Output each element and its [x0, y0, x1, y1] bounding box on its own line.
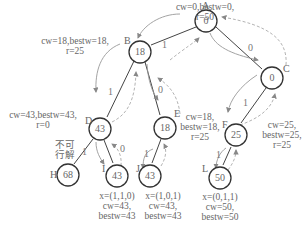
- edge-ab-label: 1: [162, 39, 167, 50]
- edge-di-label: 0: [120, 143, 125, 154]
- edge-fl-label: 1: [216, 149, 221, 160]
- node-c-letter: C: [283, 63, 290, 74]
- node-h-value: 68: [63, 169, 73, 180]
- node-f-value: 25: [231, 129, 241, 140]
- node-b-letter: B: [124, 35, 131, 46]
- node-b-info: cw=18,bestw=18, r=25: [30, 36, 120, 56]
- node-a-info: cw=0,bestw=0, r=50: [160, 2, 250, 22]
- node-l-value: 50: [215, 172, 225, 183]
- infeasible-note: 不可 行解: [50, 140, 80, 160]
- node-j-value: 43: [145, 170, 155, 181]
- node-d-info: cw=43,bestw=43, r=0: [0, 110, 86, 130]
- node-d-value: 43: [95, 123, 105, 134]
- node-l-info: x=(0,1,1) cw=50, bestw=50: [195, 192, 245, 222]
- node-l-letter: L: [202, 163, 208, 174]
- node-e-info: cw=18, bestw=18, r=25: [175, 112, 225, 142]
- node-j-info: x=(1,0,1) cw=43, bestw=43: [138, 191, 188, 221]
- node-c-value: 0: [270, 72, 275, 83]
- edge-dh-label: 1: [82, 146, 87, 157]
- edge-be-label: 0: [158, 84, 163, 95]
- node-e-value: 18: [160, 122, 170, 133]
- node-h-letter: H: [50, 169, 57, 180]
- node-j-letter: J: [136, 163, 140, 174]
- node-d-letter: D: [85, 115, 92, 126]
- node-f-info: cw=25, bestw=25, r=25: [257, 120, 303, 150]
- edge-cf-label: 1: [243, 97, 248, 108]
- edge-ac-label: 0: [248, 42, 253, 53]
- node-i-letter: I: [102, 163, 105, 174]
- node-b-value: 18: [135, 46, 145, 57]
- node-i-info: x=(1,1,0) cw=43, bestw=43: [92, 191, 142, 221]
- edge-ej-label: 1: [144, 148, 149, 159]
- node-i-value: 43: [112, 170, 122, 181]
- edge-bd-label: 1: [108, 86, 113, 97]
